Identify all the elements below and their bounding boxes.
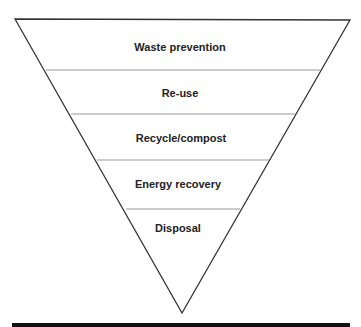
inverted-triangle-outline xyxy=(15,19,350,313)
tier-label-disposal: Disposal xyxy=(155,222,201,234)
tier-label-waste-prevention: Waste prevention xyxy=(134,41,226,53)
tier-label-recycle-compost: Recycle/compost xyxy=(136,132,227,144)
bottom-rule xyxy=(12,323,350,327)
tier-label-energy-recovery: Energy recovery xyxy=(135,178,222,190)
waste-hierarchy-diagram: Waste prevention Re-use Recycle/compost … xyxy=(0,0,361,327)
tier-label-re-use: Re-use xyxy=(162,87,199,99)
